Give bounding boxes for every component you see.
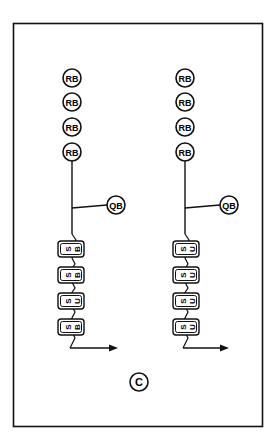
svg-text:RB: RB	[66, 148, 79, 158]
svg-text:C: C	[135, 376, 143, 388]
svg-text:U: U	[188, 298, 197, 304]
svg-text:B: B	[73, 324, 82, 330]
unit-block: S U	[173, 267, 199, 283]
svg-text:QB: QB	[222, 201, 236, 211]
svg-text:S: S	[179, 324, 188, 330]
svg-text:S: S	[64, 298, 73, 304]
rb-node: RB	[63, 69, 81, 87]
svg-text:RB: RB	[179, 148, 192, 158]
svg-text:RB: RB	[179, 74, 192, 84]
panel-border	[14, 24, 263, 427]
unit-block: S B	[58, 267, 84, 283]
unit-block: S B	[58, 241, 84, 257]
rb-node: RB	[176, 69, 194, 87]
rb-node: RB	[63, 93, 81, 111]
unit-block: S U	[173, 241, 199, 257]
rb-node: RB	[63, 143, 81, 161]
unit-block: S U	[58, 293, 84, 309]
svg-text:RB: RB	[66, 123, 79, 133]
svg-text:RB: RB	[66, 74, 79, 84]
qb-node: QB	[220, 196, 238, 214]
svg-text:S: S	[64, 246, 73, 252]
diagram-canvas: RB RB RB RB QB S B S	[0, 0, 278, 445]
svg-text:S: S	[64, 324, 73, 330]
svg-text:RB: RB	[179, 123, 192, 133]
svg-text:RB: RB	[179, 98, 192, 108]
unit-block: S U	[173, 293, 199, 309]
rb-node: RB	[176, 143, 194, 161]
svg-text:S: S	[179, 298, 188, 304]
panel-label: C	[130, 373, 148, 391]
svg-text:RB: RB	[66, 98, 79, 108]
left-column: RB RB RB RB QB S B S	[58, 69, 125, 352]
rb-node: RB	[176, 118, 194, 136]
qb-branch	[72, 205, 107, 208]
svg-text:B: B	[73, 272, 82, 278]
unit-block: S U	[173, 319, 199, 335]
qb-branch	[185, 205, 220, 208]
right-column: RB RB RB RB QB S U S	[173, 69, 238, 352]
rb-node: RB	[63, 118, 81, 136]
svg-text:QB: QB	[109, 201, 123, 211]
arrow-head-icon	[220, 345, 229, 352]
svg-text:S: S	[179, 272, 188, 278]
svg-text:U: U	[73, 298, 82, 304]
qb-node: QB	[107, 196, 125, 214]
unit-block: S B	[58, 319, 84, 335]
svg-text:U: U	[188, 272, 197, 278]
svg-text:S: S	[179, 246, 188, 252]
svg-text:B: B	[73, 246, 82, 252]
svg-text:U: U	[188, 324, 197, 330]
svg-text:S: S	[64, 272, 73, 278]
svg-text:U: U	[188, 246, 197, 252]
rb-node: RB	[176, 93, 194, 111]
arrow-head-icon	[109, 345, 118, 352]
